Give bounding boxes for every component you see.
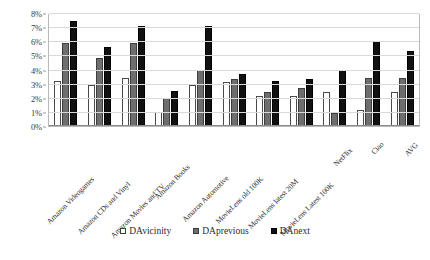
- grid-line: [49, 84, 419, 85]
- y-axis-tick: [43, 14, 46, 15]
- x-axis-tick-label: Ciao: [369, 140, 385, 156]
- bar: [155, 112, 162, 126]
- y-axis-tick: [43, 56, 46, 57]
- grid-line: [49, 13, 419, 14]
- x-axis-labels: Amazon VideogamesAmazon CDs and VinylAma…: [48, 128, 420, 210]
- y-axis-tick: [43, 70, 46, 71]
- y-axis: 0%1%2%3%4%5%6%7%8%: [0, 14, 46, 127]
- bar: [171, 91, 178, 126]
- bar-chart: 0%1%2%3%4%5%6%7%8% Amazon VideogamesAmaz…: [0, 0, 430, 260]
- legend-label: DAprevious: [202, 226, 248, 236]
- y-axis-tick-label: 4%: [31, 66, 42, 76]
- grid-line: [49, 98, 419, 99]
- legend-swatch-icon: [193, 228, 199, 234]
- y-axis-tick-label: 0%: [31, 122, 42, 132]
- x-axis-tick-label: AVG: [403, 141, 420, 158]
- legend-label: DAvicinity: [129, 226, 171, 236]
- y-axis-tick-label: 6%: [31, 37, 42, 47]
- legend-item[interactable]: DAprevious: [193, 226, 248, 236]
- grid-line: [49, 27, 419, 28]
- legend-item[interactable]: DAnext: [271, 226, 310, 236]
- y-axis-tick: [43, 84, 46, 85]
- grid-line: [49, 70, 419, 71]
- bar: [223, 82, 230, 126]
- bar: [122, 78, 129, 126]
- y-axis-tick: [43, 112, 46, 113]
- y-axis-tick-label: 7%: [31, 23, 42, 33]
- bar: [54, 81, 61, 126]
- bar: [298, 88, 305, 126]
- plot-area: [48, 14, 420, 127]
- legend-item[interactable]: DAvicinity: [120, 226, 171, 236]
- bar: [272, 81, 279, 126]
- x-axis-tick-label: NetFlix: [332, 146, 354, 168]
- y-axis-tick: [43, 98, 46, 99]
- bar: [70, 21, 77, 126]
- legend-swatch-icon: [271, 228, 277, 234]
- bar: [96, 58, 103, 126]
- bar: [104, 47, 111, 126]
- bar: [189, 85, 196, 126]
- bar: [365, 78, 372, 126]
- y-axis-tick: [43, 127, 46, 128]
- grid-line: [49, 112, 419, 113]
- y-axis-tick: [43, 28, 46, 29]
- grid-line: [49, 41, 419, 42]
- bar: [231, 79, 238, 126]
- y-axis-tick-label: 8%: [31, 9, 42, 19]
- legend-swatch-icon: [120, 228, 126, 234]
- y-axis-tick: [43, 42, 46, 43]
- y-axis-tick-label: 2%: [31, 94, 42, 104]
- bar: [399, 78, 406, 126]
- legend-label: DAnext: [280, 226, 310, 236]
- bar: [88, 85, 95, 126]
- y-axis-tick-label: 5%: [31, 51, 42, 61]
- bar: [306, 79, 313, 126]
- chart-legend: DAvicinityDApreviousDAnext: [0, 226, 430, 236]
- bar: [407, 51, 414, 126]
- bar: [239, 74, 246, 126]
- y-axis-tick-label: 3%: [31, 80, 42, 90]
- y-axis-tick-label: 1%: [31, 108, 42, 118]
- x-axis-baseline: [49, 125, 419, 126]
- grid-line: [49, 55, 419, 56]
